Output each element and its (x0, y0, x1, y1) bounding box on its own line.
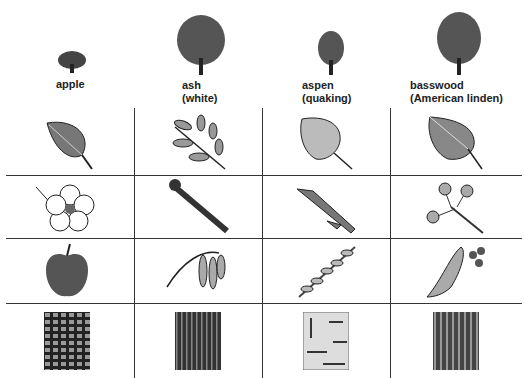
aspen-catkin-icon (262, 239, 390, 303)
ash-leaf-icon (134, 110, 262, 175)
column-subname: (white) (182, 92, 217, 105)
basswood-bark-icon (390, 304, 522, 378)
basswood-tree-icon (436, 12, 482, 76)
aspen-bark-icon (262, 304, 390, 378)
column-header-apple: apple (56, 78, 85, 91)
ash-bark-icon (134, 304, 262, 378)
column-name: ash (182, 79, 217, 92)
aspen-bud-icon (262, 176, 390, 238)
apple-blossom-icon (0, 176, 134, 238)
apple-tree-icon (56, 50, 88, 74)
column-name: aspen (302, 79, 352, 92)
aspen-leaf-icon (262, 110, 390, 175)
ash-bud-icon (134, 176, 262, 238)
column-subname: (quaking) (302, 92, 352, 105)
basswood-leaf-icon (390, 110, 522, 175)
ash-samara-icon (134, 239, 262, 303)
apple-leaf-icon (0, 110, 134, 175)
column-name: apple (56, 78, 85, 91)
basswood-flower-icon (390, 176, 522, 238)
apple-bark-icon (0, 304, 134, 378)
aspen-tree-icon (316, 30, 346, 76)
column-header-aspen: aspen (quaking) (302, 79, 352, 105)
column-header-ash: ash (white) (182, 79, 217, 105)
apple-fruit-icon (0, 239, 134, 303)
column-subname: (American linden) (410, 92, 503, 105)
ash-tree-icon (176, 14, 226, 76)
column-header-basswood: basswood (American linden) (410, 79, 503, 105)
column-name: basswood (410, 79, 503, 92)
basswood-fruit-icon (390, 239, 522, 303)
